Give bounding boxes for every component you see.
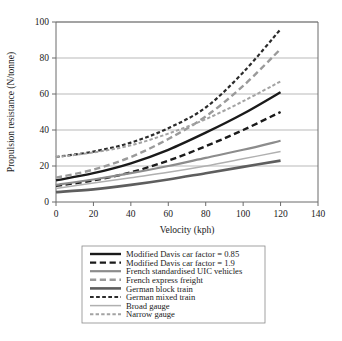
x-tick-label-120: 120 — [273, 209, 288, 219]
chart-figure: 020406080100 020406080100120140 Propulsi… — [0, 0, 342, 341]
propulsion-resistance-chart: 020406080100 020406080100120140 Propulsi… — [0, 0, 342, 341]
x-tick-label-0: 0 — [54, 209, 59, 219]
y-tick-label-20: 20 — [40, 161, 50, 171]
y-tick-label-60: 60 — [40, 89, 50, 99]
x-tick-label-140: 140 — [311, 209, 326, 219]
x-tick-label-20: 20 — [89, 209, 99, 219]
y-tick-label-0: 0 — [44, 197, 49, 207]
chart-legend: Modified Davis car factor = 0.85Modified… — [82, 246, 265, 323]
x-tick-label-80: 80 — [201, 209, 211, 219]
y-tick-label-100: 100 — [35, 17, 50, 27]
y-axis-label: Propulsion resistance (N/tonne) — [6, 52, 17, 172]
y-tick-label-80: 80 — [40, 53, 50, 63]
y-tick-label-40: 40 — [40, 125, 50, 135]
x-tick-label-40: 40 — [126, 209, 136, 219]
legend-label-7: Narrow gauge — [126, 309, 175, 319]
x-tick-label-60: 60 — [164, 209, 174, 219]
x-axis-label: Velocity (kph) — [160, 225, 215, 236]
x-tick-label-100: 100 — [236, 209, 251, 219]
